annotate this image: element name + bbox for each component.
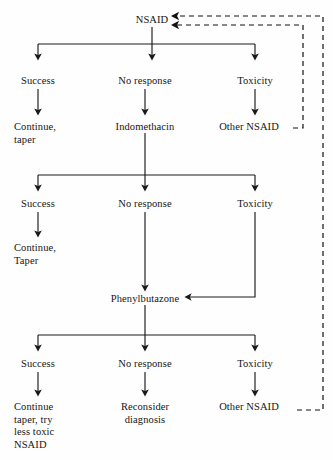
node-other-nsaid-1: Other NSAID	[219, 121, 279, 134]
node-other-nsaid-3: Other NSAID	[219, 401, 279, 414]
node-no-response-3: No response	[118, 358, 171, 371]
node-reconsider-diagnosis: Reconsider diagnosis	[121, 401, 169, 426]
edge-toxicity2-phenylbutazone	[188, 212, 255, 297]
node-toxicity-1: Toxicity	[237, 75, 273, 88]
flowchart-connectors	[0, 0, 333, 460]
node-continue-taper-2: Continue, Taper	[14, 242, 56, 267]
node-no-response-2: No response	[118, 198, 171, 211]
node-toxicity-2: Toxicity	[237, 198, 273, 211]
node-indomethacin: Indomethacin	[116, 121, 175, 134]
flowchart-diagram: NSAID Success No response Toxicity Conti…	[0, 0, 333, 460]
node-success-3: Success	[21, 358, 55, 371]
node-success-1: Success	[21, 75, 55, 88]
node-success-2: Success	[21, 198, 55, 211]
node-phenylbutazone: Phenylbutazone	[111, 293, 179, 306]
node-toxicity-3: Toxicity	[237, 358, 273, 371]
node-no-response-1: No response	[118, 75, 171, 88]
node-continue-taper-3: Continue taper, try less toxic NSAID	[14, 401, 54, 451]
node-nsaid: NSAID	[136, 14, 169, 27]
node-continue-taper-1: Continue, taper	[14, 121, 56, 146]
